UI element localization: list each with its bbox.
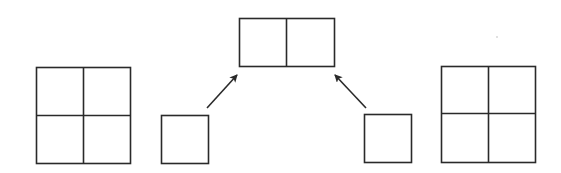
left-arrow xyxy=(207,75,237,108)
right-small-square xyxy=(365,115,412,163)
right-grid xyxy=(442,67,536,163)
left-small-square xyxy=(162,116,209,164)
left-grid xyxy=(37,68,131,164)
diagram-canvas xyxy=(0,0,561,173)
top-rectangle xyxy=(240,19,335,67)
speck xyxy=(496,36,498,38)
right-arrow xyxy=(335,75,366,108)
